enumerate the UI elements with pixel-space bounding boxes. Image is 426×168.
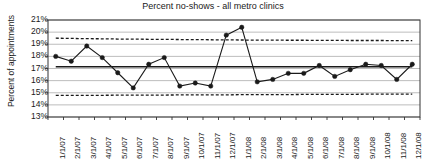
data-point (85, 44, 89, 48)
data-point (364, 62, 368, 66)
data-point (240, 25, 244, 29)
data-point (333, 74, 337, 78)
data-point (209, 84, 213, 88)
chart-plot-area (0, 0, 426, 168)
gridlines (48, 20, 420, 117)
data-point (410, 62, 414, 66)
data-point (271, 77, 275, 81)
data-point (100, 55, 104, 59)
data-point (348, 68, 352, 72)
chart-container: Percent no-shows - all metro clinics Per… (0, 0, 426, 168)
data-point (178, 84, 182, 88)
data-point (193, 81, 197, 85)
control-limit-line (56, 38, 413, 40)
data-point (255, 80, 259, 84)
data-point (116, 71, 120, 75)
data-point (131, 86, 135, 90)
control-limit-line (56, 94, 413, 95)
data-point (69, 59, 73, 63)
data-point (147, 62, 151, 66)
data-point (286, 71, 290, 75)
data-point (162, 55, 166, 59)
data-point (224, 33, 228, 37)
data-point (54, 54, 58, 58)
data-point (395, 77, 399, 81)
data-point (302, 71, 306, 75)
